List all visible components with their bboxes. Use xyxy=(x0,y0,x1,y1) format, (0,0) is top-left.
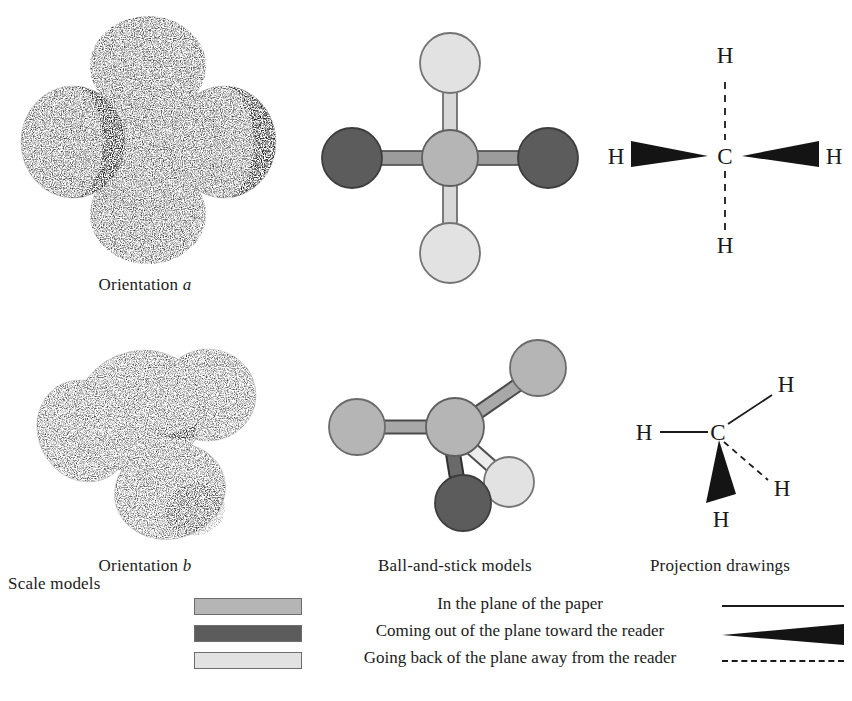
solid-wedge-icon xyxy=(722,621,844,647)
proj-b-h-left: H xyxy=(636,420,653,445)
bond-b-wedge xyxy=(706,440,736,503)
legend-text-in-plane: In the plane of the paper xyxy=(437,594,603,614)
legend-swatch-away-from-reader xyxy=(194,652,302,669)
projection-drawing-orientation-a: H H H H C xyxy=(600,40,850,270)
ball-and-stick-orientation-a xyxy=(310,18,590,293)
legend-row-away-from-reader: Going back of the plane away from the re… xyxy=(0,648,852,674)
legend-swatch-toward-reader xyxy=(194,625,302,642)
orientation-b-caption: Orientation b xyxy=(99,556,192,576)
ball-b-center-carbon xyxy=(426,398,484,456)
plain-line-icon xyxy=(722,605,844,607)
proj-b-carbon: C xyxy=(710,420,725,445)
orientation-a-letter: a xyxy=(183,275,192,294)
legend-text-toward-reader: Coming out of the plane toward the reade… xyxy=(376,621,664,641)
proj-b-h-dashed: H xyxy=(774,476,791,501)
ball-a-bottom-away xyxy=(420,223,480,283)
ball-a-top-away xyxy=(420,33,480,93)
projection-drawing-orientation-b: H H H H C xyxy=(620,370,840,545)
orientation-a-caption: Orientation a xyxy=(99,275,192,295)
column-label-scale-models: Scale models xyxy=(8,574,101,594)
legend: In the plane of the paper Coming out of … xyxy=(0,594,852,686)
column-label-projection-drawings: Projection drawings xyxy=(650,556,790,576)
ball-b-front-toward xyxy=(435,475,491,531)
figure-methane-representations: Orientation a xyxy=(0,0,852,701)
legend-row-in-plane: In the plane of the paper xyxy=(0,594,852,620)
legend-swatch-in-plane xyxy=(194,598,302,615)
ball-a-right-toward xyxy=(518,128,578,188)
column-label-ball-and-stick: Ball-and-stick models xyxy=(378,556,532,576)
bond-b-upper-right-plain xyxy=(728,395,772,424)
bond-a-left-wedge xyxy=(631,141,708,167)
ball-b-upper-right-in-plane xyxy=(510,340,566,396)
ball-a-center-carbon xyxy=(422,130,478,186)
proj-b-h-upper-right: H xyxy=(778,372,795,397)
proj-a-carbon: C xyxy=(717,144,732,169)
legend-symbol-dashed-line xyxy=(722,648,844,674)
legend-symbol-solid-wedge xyxy=(722,621,844,647)
proj-a-h-top: H xyxy=(717,43,734,68)
proj-a-h-right: H xyxy=(826,144,843,169)
bond-b-dashed xyxy=(724,442,768,480)
scale-model-orientation-a xyxy=(18,14,278,264)
orientation-a-prefix: Orientation xyxy=(99,275,179,294)
scale-model-orientation-b xyxy=(22,333,272,553)
legend-row-toward-reader: Coming out of the plane toward the reade… xyxy=(0,621,852,647)
orientation-b-prefix: Orientation xyxy=(99,556,179,575)
ball-and-stick-orientation-b xyxy=(320,335,590,550)
orientation-b-letter: b xyxy=(183,556,192,575)
proj-a-h-bottom: H xyxy=(717,233,734,258)
bond-a-right-wedge xyxy=(742,141,819,167)
proj-a-h-left: H xyxy=(608,144,625,169)
ball-a-left-toward xyxy=(322,128,382,188)
proj-b-h-wedge: H xyxy=(713,507,730,532)
ball-b-left-in-plane xyxy=(329,399,385,455)
dashed-line-icon xyxy=(722,660,844,662)
legend-symbol-plain-line xyxy=(722,594,844,620)
legend-text-away-from-reader: Going back of the plane away from the re… xyxy=(364,648,676,668)
